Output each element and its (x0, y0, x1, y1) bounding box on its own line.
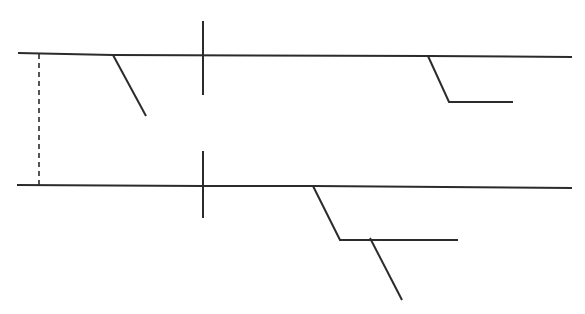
lower-fault-step (313, 186, 458, 240)
upper-fault-step-right (428, 56, 513, 102)
lower-bed-line-right (313, 186, 572, 188)
diagram-canvas (0, 0, 585, 314)
upper-bed-line-right (428, 56, 572, 57)
lower-fault-diagonal (370, 238, 402, 300)
line-drawing-figure (0, 0, 585, 314)
lower-bed-line-left (17, 185, 313, 186)
upper-bed-line-left (18, 53, 428, 56)
upper-fault-diagonal-left (113, 55, 146, 116)
figure-elements (17, 21, 572, 300)
